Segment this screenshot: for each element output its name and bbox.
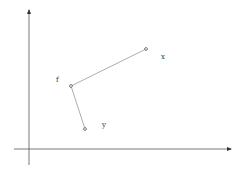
edge-f-y bbox=[71, 86, 85, 129]
point-y-marker bbox=[84, 128, 87, 131]
point-f-marker bbox=[70, 85, 73, 88]
point-x-label: x bbox=[161, 53, 165, 61]
coordinate-diagram: fxy bbox=[0, 0, 239, 173]
point-y-label: y bbox=[101, 121, 106, 129]
point-x-marker bbox=[145, 48, 148, 51]
edges-group bbox=[71, 49, 146, 129]
edge-f-x bbox=[71, 49, 146, 86]
point-f-label: f bbox=[56, 76, 60, 84]
